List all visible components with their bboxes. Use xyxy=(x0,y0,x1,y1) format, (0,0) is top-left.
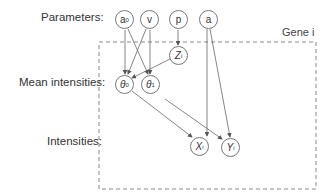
node-Yi-base: Y xyxy=(226,142,233,153)
plate-label: Gene i xyxy=(282,26,314,38)
node-a-base: a xyxy=(206,14,212,25)
node-theta0: θ0 xyxy=(115,75,134,94)
node-a0-sub: 0 xyxy=(126,17,129,23)
node-Xi: Xi xyxy=(190,137,209,156)
node-a0: a0 xyxy=(115,10,134,29)
node-v-base: v xyxy=(147,14,152,25)
node-Xi-sub: i xyxy=(202,144,203,150)
row-label-parameters: Parameters: xyxy=(41,11,104,23)
node-p-base: p xyxy=(176,14,182,25)
node-p: p xyxy=(169,10,188,29)
node-Yi: Yi xyxy=(221,138,240,157)
node-theta1: θ1 xyxy=(141,75,160,94)
row-label-intensities: Intensities: xyxy=(47,135,102,147)
row-label-mean-intensities: Mean intensities: xyxy=(19,76,105,88)
node-v: v xyxy=(140,10,159,29)
node-Zi: Zi xyxy=(169,46,188,65)
node-Yi-sub: i xyxy=(233,145,234,151)
node-a: a xyxy=(199,10,218,29)
node-Zi-sub: i xyxy=(181,53,182,59)
node-Xi-base: X xyxy=(195,141,202,152)
node-theta0-sub: 0 xyxy=(126,82,129,88)
node-theta1-sub: 1 xyxy=(152,82,155,88)
